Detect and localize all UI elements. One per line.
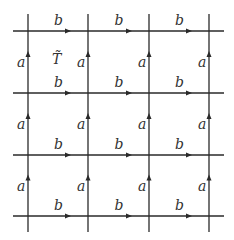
- edge-label-a: a: [17, 178, 25, 194]
- edge-label-b: b: [54, 197, 63, 213]
- edge-label-b: b: [175, 197, 184, 213]
- arrow-up-icon: [86, 51, 91, 57]
- arrow-up-icon: [207, 113, 212, 119]
- arrow-up-icon: [147, 113, 152, 119]
- edge-label-b: b: [54, 12, 63, 28]
- arrow-up-icon: [207, 175, 212, 181]
- arrow-right-icon: [65, 91, 71, 96]
- edge-label-a: a: [77, 178, 85, 194]
- arrow-right-icon: [65, 153, 71, 158]
- region-label-T-tilde: T̃: [52, 50, 63, 67]
- edge-label-b: b: [115, 136, 124, 152]
- edge-label-b: b: [175, 74, 184, 90]
- arrow-right-icon: [186, 153, 192, 158]
- edge-label-a: a: [77, 54, 85, 70]
- edge-label-b: b: [54, 74, 63, 90]
- edge-label-a: a: [77, 116, 85, 132]
- arrow-right-icon: [65, 214, 71, 219]
- edge-label-b: b: [175, 12, 184, 28]
- arrow-right-icon: [126, 153, 132, 158]
- arrow-up-icon: [26, 51, 31, 57]
- arrow-up-icon: [147, 175, 152, 181]
- edge-label-b: b: [175, 136, 184, 152]
- arrow-up-icon: [86, 175, 91, 181]
- edge-label-b: b: [115, 12, 124, 28]
- arrow-right-icon: [126, 214, 132, 219]
- edge-label-b: b: [115, 197, 124, 213]
- lattice-diagram: bbbbbbbbbbbbaaaaaaaaaaaaT̃: [0, 0, 234, 240]
- edge-label-a: a: [198, 178, 206, 194]
- edge-label-a: a: [138, 178, 146, 194]
- arrow-right-icon: [65, 29, 71, 34]
- edge-label-a: a: [198, 54, 206, 70]
- arrow-right-icon: [126, 29, 132, 34]
- arrow-up-icon: [147, 51, 152, 57]
- arrow-right-icon: [186, 29, 192, 34]
- edge-label-a: a: [198, 116, 206, 132]
- edge-label-a: a: [17, 54, 25, 70]
- edge-label-a: a: [17, 116, 25, 132]
- edge-label-b: b: [115, 74, 124, 90]
- arrow-right-icon: [186, 214, 192, 219]
- arrow-right-icon: [186, 91, 192, 96]
- arrow-up-icon: [86, 113, 91, 119]
- edge-label-b: b: [54, 136, 63, 152]
- arrow-up-icon: [207, 51, 212, 57]
- arrow-up-icon: [26, 113, 31, 119]
- arrow-right-icon: [126, 91, 132, 96]
- edge-label-a: a: [138, 116, 146, 132]
- arrow-up-icon: [26, 175, 31, 181]
- edge-label-a: a: [138, 54, 146, 70]
